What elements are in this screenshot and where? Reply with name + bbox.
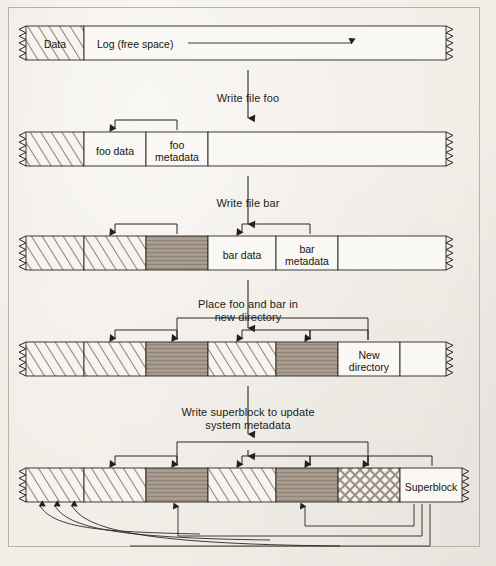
transition-label-place-dir: Place foo and bar in new directory xyxy=(148,298,348,324)
diagram-canvas xyxy=(0,0,496,566)
stage-3-bar xyxy=(19,236,453,270)
stage-4-cell-new-directory xyxy=(338,342,400,376)
stage-5-superblock-return-short xyxy=(305,504,414,526)
stage-5-pointer-dir-to-barmeta xyxy=(310,456,368,466)
stage-5-cell-foo-data xyxy=(84,468,146,502)
stage-3-cell-bar-data xyxy=(208,236,276,270)
stage-5-torn-right-icon xyxy=(462,468,469,502)
stage-3-cell-foo-data xyxy=(84,236,146,270)
stage-4-pointer-dir-to-barmeta xyxy=(310,330,368,340)
stage-5-cell-foo-metadata xyxy=(146,468,208,502)
stage-5-cell-bar-metadata xyxy=(276,468,338,502)
stage-5-cell-data-region xyxy=(26,468,84,502)
stage-3-cell-foo-metadata xyxy=(146,236,208,270)
stage-5-backref-arrow-3 xyxy=(72,506,340,546)
log-free-space-label: Log (free space) xyxy=(97,38,173,50)
transition-label-write-bar: Write file bar xyxy=(148,197,348,210)
stage-5-pointer-dir-to-foometa xyxy=(177,442,368,466)
stage-2-torn-left-icon xyxy=(19,132,26,166)
stage-4-torn-right-icon xyxy=(446,342,453,376)
stage-4-bar xyxy=(19,342,453,376)
stage-5-torn-left-icon xyxy=(19,468,26,502)
stage-4-cell-foo-metadata xyxy=(146,342,208,376)
stage-5-pointer-barmeta-to-bardata xyxy=(242,456,310,466)
stage-1-torn-right-icon xyxy=(446,26,453,60)
figure-page: Log (free space) Data Write file foo foo… xyxy=(0,0,496,566)
transition-label-write-superblock: Write superblock to update system metada… xyxy=(140,406,356,432)
stage-5-pointer-foometa-to-foodata xyxy=(115,456,177,466)
stage-4-cell-foo-data xyxy=(84,342,146,376)
stage-3-pointer-foometa-to-foodata xyxy=(115,224,177,234)
stage-3-pointer-barmeta-to-bardata xyxy=(242,224,310,234)
stage-5-backref-arrow-1 xyxy=(40,506,200,534)
stage-3-cell-data-region xyxy=(26,236,84,270)
stage-1-torn-left-icon xyxy=(19,26,26,60)
stage-5-bar xyxy=(19,468,469,502)
stage-4-pointer-barmeta-to-bardata xyxy=(242,330,310,340)
stage-2-pointer-foometa-to-foodata xyxy=(115,120,177,130)
stage-4-cell-bar-data xyxy=(208,342,276,376)
stage-5-cell-new-directory xyxy=(338,468,400,502)
stage-3-cell-log-free-space xyxy=(338,236,446,270)
stage-3-torn-left-icon xyxy=(19,236,26,270)
stage-2-bar xyxy=(19,132,453,166)
stage-2-cell-log-free-space xyxy=(208,132,446,166)
stage-5-cell-bar-data xyxy=(208,468,276,502)
stage-3-cell-bar-metadata xyxy=(276,236,338,270)
stage-5-pointer-superblock-to-dir xyxy=(368,456,432,466)
stage-5-superblock-return-long xyxy=(130,504,430,546)
stage-2-cell-data-region xyxy=(26,132,84,166)
stage-4-cell-bar-metadata xyxy=(276,342,338,376)
transition-label-write-foo: Write file foo xyxy=(148,92,348,105)
stage-5-backref-arrow-2 xyxy=(55,506,270,540)
stage-4-pointer-foometa-to-foodata xyxy=(115,330,177,340)
stage-2-torn-right-icon xyxy=(446,132,453,166)
stage-4-cell-log-free-space xyxy=(400,342,446,376)
stage-2-cell-foo-metadata xyxy=(146,132,208,166)
stage-5-cell-superblock xyxy=(400,468,462,502)
stage-4-torn-left-icon xyxy=(19,342,26,376)
stage-3-torn-right-icon xyxy=(446,236,453,270)
stage-1-cell-data-region xyxy=(26,26,84,60)
stage-4-cell-data-region xyxy=(26,342,84,376)
stage-2-cell-foo-data xyxy=(84,132,146,166)
stage-5-superblock-return-mid xyxy=(178,504,422,536)
